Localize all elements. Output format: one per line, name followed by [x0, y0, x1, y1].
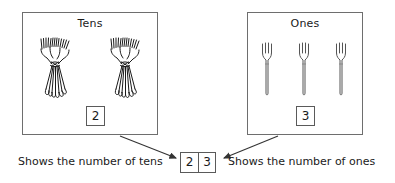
- answer-tens-cell: 2: [181, 153, 198, 172]
- fork-icon: [258, 41, 278, 99]
- caption-tens: Shows the number of tens: [18, 155, 163, 169]
- answer-ones-cell: 3: [198, 153, 215, 172]
- place-value-diagram: Tens: [0, 0, 395, 183]
- ones-group-title: Ones: [248, 17, 362, 30]
- ones-group-box: Ones: [247, 12, 363, 135]
- fork-bundle-icon: [35, 37, 75, 101]
- fork-bundle-icon: [105, 37, 145, 101]
- fork-icon: [332, 41, 352, 99]
- tens-group-box: Tens: [22, 12, 158, 135]
- caption-ones: Shows the number of ones: [228, 155, 375, 169]
- tens-objects-row: [23, 37, 157, 101]
- ones-digit-chip: 3: [296, 106, 315, 126]
- ones-objects-row: [248, 41, 362, 99]
- fork-icon: [295, 41, 315, 99]
- tens-digit-chip: 2: [86, 106, 105, 126]
- tens-group-title: Tens: [23, 17, 157, 30]
- answer-number-box: 2 3: [180, 152, 216, 173]
